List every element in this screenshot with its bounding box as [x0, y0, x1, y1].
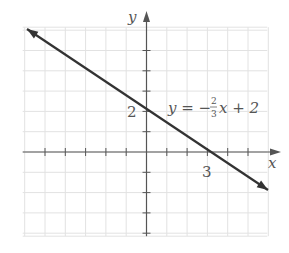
y-intercept-label: 2 [127, 103, 137, 121]
y-axis-label: y [127, 8, 137, 26]
equation-numerator: 2 [211, 96, 217, 106]
equation-label: y = − 2 3 x + 2 [167, 96, 259, 119]
equation-denominator: 3 [211, 109, 217, 119]
equation-suffix: x + 2 [219, 99, 259, 117]
coordinate-plane: y x 2 3 y = − 2 3 x + 2 [0, 0, 289, 253]
axes [23, 11, 281, 236]
svg-text:y = −: y = − [167, 99, 211, 117]
x-axis-label: x [268, 154, 277, 172]
x-intercept-label: 3 [202, 163, 212, 181]
equation-prefix: y = − [167, 99, 211, 117]
